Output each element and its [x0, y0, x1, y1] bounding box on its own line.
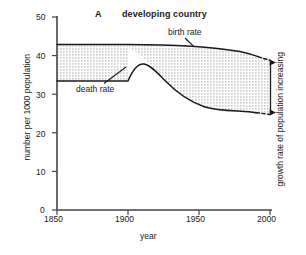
x-axis: [57, 210, 272, 215]
x-tick-label: 1950: [186, 215, 205, 224]
birth-rate-label: birth rate: [168, 28, 202, 37]
y-tick-label: 50: [36, 13, 45, 22]
x-axis-label: year: [140, 232, 157, 241]
y-axis-label: number per 1000 population: [23, 32, 32, 182]
y-tick-label: 30: [36, 91, 45, 100]
y-tick-label: 10: [36, 168, 45, 177]
growth-rate-annotation: growth rate of population increasing: [276, 39, 285, 199]
y-axis: [52, 16, 57, 210]
death-rate-label: death rate: [76, 85, 114, 94]
x-tick-label: 1850: [44, 215, 63, 224]
page-title: developing country: [122, 9, 207, 19]
y-tick-label: 40: [36, 52, 45, 61]
panel-letter: A: [95, 9, 102, 19]
y-tick-label: 20: [36, 130, 45, 139]
x-tick-label: 1900: [115, 215, 134, 224]
x-tick-label: 2000: [257, 215, 276, 224]
chart-figure: A developing country number per 1000 pop…: [0, 0, 306, 255]
